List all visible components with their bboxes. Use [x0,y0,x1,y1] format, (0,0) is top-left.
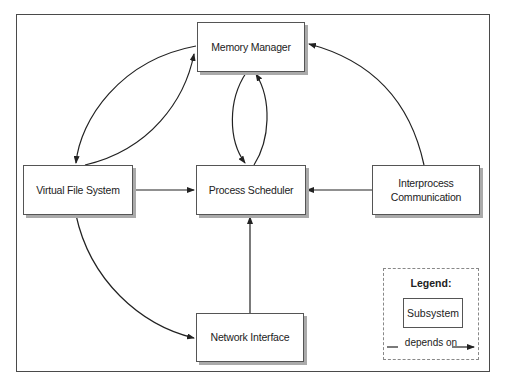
edge-memory-to-vfs [76,46,196,163]
node-label: Interprocess Communication [391,176,461,204]
node-label: Network Interface [211,330,290,344]
legend-title: Legend: [384,277,478,289]
node-memory-manager: Memory Manager [197,22,305,72]
diagram-canvas: Memory Manager Virtual File System Proce… [0,0,507,388]
node-process-scheduler: Process Scheduler [196,165,306,215]
node-interprocess-communication: Interprocess Communication [372,165,480,215]
node-network-interface: Network Interface [196,313,304,362]
legend-subsystem-label: Subsystem [407,307,459,319]
edge-vfs-to-ni [76,215,194,338]
legend-subsystem-box: Subsystem [403,298,463,328]
node-virtual-file-system: Virtual File System [23,165,133,215]
node-label: Virtual File System [36,183,120,197]
edge-vfs-to-memory [85,54,194,165]
edge-ps-to-memory [254,74,267,165]
node-label: Process Scheduler [209,183,294,197]
edge-memory-to-ps [232,73,246,163]
legend: Legend: Subsystem depends on [383,268,479,360]
edge-ipc-to-memory [309,44,424,165]
node-label: Memory Manager [211,40,290,54]
legend-depends-on-label: depends on [384,337,478,348]
